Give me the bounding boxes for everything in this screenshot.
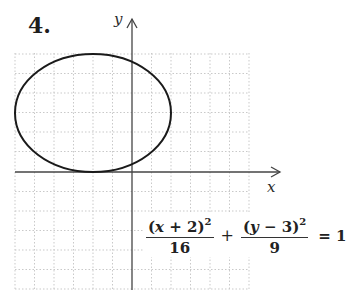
equals-one: = 1	[310, 227, 346, 245]
term2-op: − 3)	[259, 218, 300, 236]
var-x: x	[155, 218, 164, 236]
ellipse-equation: (x + 2)2 16 + (y − 3)2 9 = 1	[144, 214, 347, 257]
exponent: 2	[299, 216, 306, 227]
fraction-x-term: (x + 2)2 16	[144, 214, 216, 257]
x-axis	[15, 167, 280, 177]
numerator-y: (y − 3)2	[241, 214, 308, 238]
denominator-16: 16	[169, 238, 190, 257]
x-axis-label: x	[267, 178, 275, 196]
denominator-9: 9	[269, 238, 279, 257]
y-axis-label: y	[114, 10, 122, 28]
var-y: y	[250, 218, 259, 236]
exponent: 2	[205, 216, 212, 227]
fraction-y-term: (y − 3)2 9	[239, 214, 310, 257]
problem-number: 4.	[28, 12, 51, 38]
numerator-x: (x + 2)2	[146, 214, 214, 238]
plus-sign: +	[216, 226, 239, 245]
term1-op: + 2)	[164, 218, 205, 236]
